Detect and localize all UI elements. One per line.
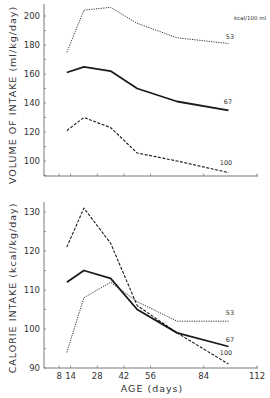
y-tick-label: 200 (24, 11, 40, 21)
x-tick-label: 56 (145, 371, 156, 381)
volume-intake-chart: 1001201401601802005367100 (24, 4, 258, 176)
x-tick-label: 28 (92, 371, 103, 381)
series-label-100: 100 (220, 159, 232, 167)
x-tick-label: 14 (65, 371, 76, 381)
y-tick-label: 180 (24, 40, 40, 50)
x-tick-label: 8 (57, 371, 62, 381)
x-tick-label: 112 (249, 371, 265, 381)
series-line-67 (67, 271, 229, 347)
series-label-67: 67 (226, 336, 234, 344)
figure: 1001201401601802005367100 90100110120130… (0, 0, 270, 398)
series-label-67: 67 (224, 98, 232, 106)
series-line-67 (67, 67, 229, 111)
calorie-intake-chart: 90100110120130814284256841125367100 (24, 202, 265, 381)
series-label-100: 100 (220, 349, 232, 357)
y-tick-label: 110 (24, 285, 40, 295)
bottom-y-axis-title: CALORIE INTAKE (kcal/kg/day) (7, 203, 18, 374)
series-label-53: 53 (226, 33, 234, 41)
y-tick-label: 160 (24, 69, 40, 79)
x-tick-label: 42 (118, 371, 129, 381)
chart-canvas: 1001201401601802005367100 90100110120130… (0, 0, 270, 398)
y-tick-label: 100 (24, 156, 40, 166)
legend-title: kcal/100 ml (234, 15, 267, 21)
series-line-53 (67, 282, 229, 352)
x-tick-label: 84 (198, 371, 209, 381)
series-line-53 (67, 7, 229, 52)
series-line-100 (67, 118, 229, 173)
series-label-53: 53 (226, 309, 234, 317)
y-tick-label: 140 (24, 98, 40, 108)
y-tick-label: 120 (24, 127, 40, 137)
y-tick-label: 120 (24, 246, 40, 256)
top-y-axis-title: VOLUME OF INTAKE (ml/kg/day) (7, 6, 18, 184)
y-tick-label: 90 (29, 363, 40, 373)
y-tick-label: 130 (24, 207, 40, 217)
y-tick-label: 100 (24, 324, 40, 334)
x-axis-title: AGE (days) (121, 383, 184, 394)
